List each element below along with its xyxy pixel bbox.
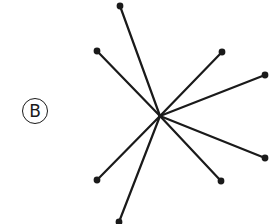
graph-node xyxy=(219,49,226,56)
figure-label-badge: B xyxy=(22,98,48,124)
graph-edge xyxy=(97,116,160,180)
graph-node xyxy=(94,177,101,184)
graph-edge xyxy=(160,52,222,116)
graph-nodes xyxy=(94,3,269,224)
graph-edge xyxy=(160,75,265,116)
graph-node xyxy=(116,219,123,224)
graph-edge xyxy=(97,51,160,116)
graph-edges xyxy=(97,6,265,222)
graph-node xyxy=(262,72,269,79)
graph-edge xyxy=(120,6,160,116)
graph-node xyxy=(94,48,101,55)
graph-edge xyxy=(160,116,265,158)
graph-node xyxy=(262,155,269,162)
graph-center-node xyxy=(158,114,162,118)
graph-edge xyxy=(160,116,221,181)
figure-label: B xyxy=(29,103,41,120)
graph-edge xyxy=(119,116,160,222)
graph-node xyxy=(117,3,124,10)
graph-node xyxy=(218,178,225,185)
